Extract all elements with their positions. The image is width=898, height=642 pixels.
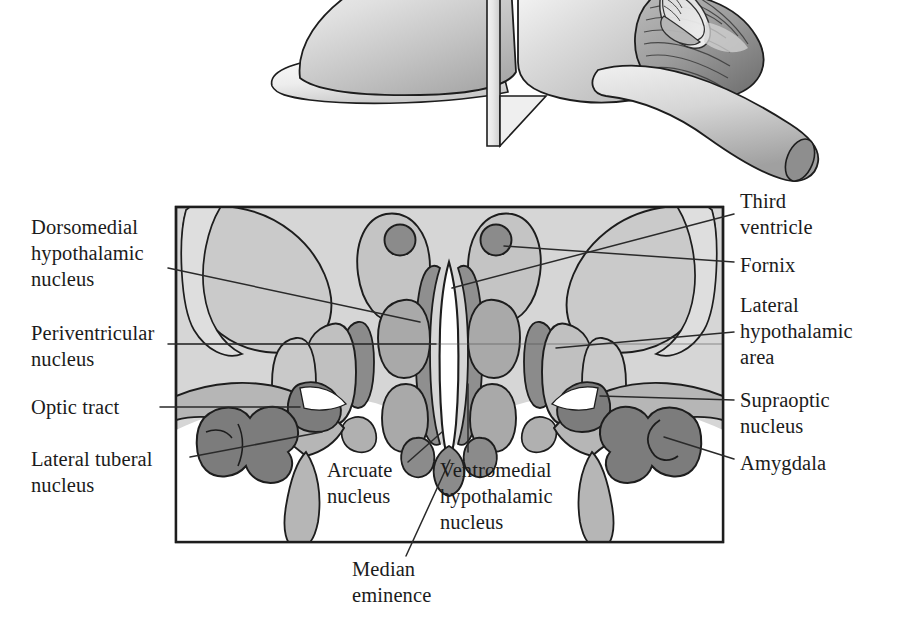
leader-supraoptic (600, 396, 734, 400)
label-lateral-tuberal-nucleus: Lateral tuberal nucleus (31, 446, 206, 498)
leader-amygdala (664, 437, 734, 459)
leader-third-ventricle (452, 214, 734, 288)
label-arcuate-nucleus: Arcuate nucleus (327, 457, 447, 509)
label-supraoptic-nucleus: Supraoptic nucleus (740, 387, 895, 439)
leader-fornix (504, 246, 734, 262)
label-ventromedial-hypothalamic-nucleus: Ventromedial hypothalamic nucleus (440, 457, 605, 535)
label-optic-tract: Optic tract (31, 394, 191, 420)
leader-lateral-hypo (556, 332, 734, 348)
leader-lateral-tuberal (190, 432, 322, 457)
label-amygdala: Amygdala (740, 450, 895, 476)
label-fornix: Fornix (740, 252, 895, 278)
figure-root: Hypothalamic nuclei in coronal section (0, 0, 898, 642)
label-periventricular-nucleus: Periventricular nucleus (31, 320, 211, 372)
label-median-eminence: Median eminence (352, 556, 502, 608)
label-third-ventricle: Third ventricle (740, 188, 895, 240)
label-dorsomedial-hypothalamic-nucleus: Dorsomedial hypothalamic nucleus (31, 214, 206, 292)
label-lateral-hypothalamic-area: Lateral hypothalamic area (740, 292, 898, 370)
